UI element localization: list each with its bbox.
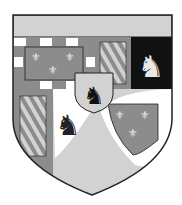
svg-text:⚜: ⚜ <box>115 109 125 122</box>
svg-text:⚜: ⚜ <box>48 64 58 77</box>
lion-icon: ♞ <box>138 49 165 84</box>
svg-text:⚜: ⚜ <box>140 109 150 122</box>
svg-text:⚜: ⚜ <box>65 51 75 64</box>
coat-of-arms: ⚜⚜⚜ ♞ ♞ ⚜⚜⚜ ♞ <box>0 0 182 205</box>
lion-icon: ♞ <box>83 82 105 110</box>
svg-text:⚜: ⚜ <box>128 127 138 140</box>
chief <box>13 15 172 37</box>
lion-icon: ♞ <box>55 109 80 142</box>
shield-graphic: ⚜⚜⚜ ♞ ♞ ⚜⚜⚜ ♞ <box>0 0 182 205</box>
svg-text:⚜: ⚜ <box>31 51 41 64</box>
